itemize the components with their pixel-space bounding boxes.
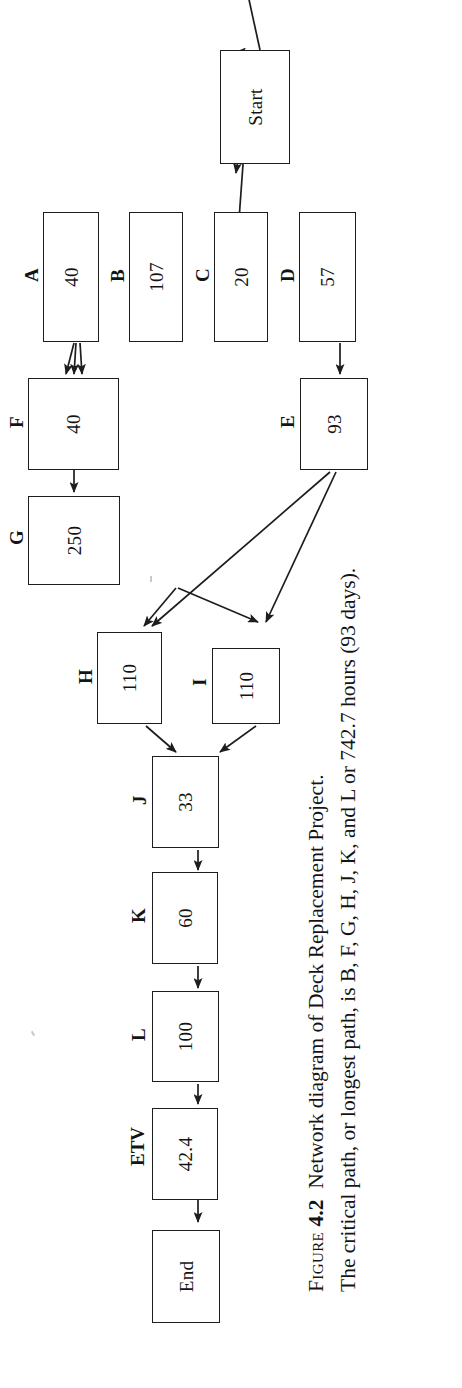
caption-figure-word: Figure — [304, 1232, 328, 1292]
edge-start-d — [236, 0, 260, 50]
caption-line-2: The critical path, or longest path, is B… — [332, 92, 364, 1292]
node-f-duration: 40 — [64, 414, 83, 434]
caption-line-1: Figure 4.2 Network diagram of Deck Repla… — [300, 92, 332, 1292]
node-start-text: Start — [246, 88, 265, 125]
node-l-label: L — [129, 1028, 148, 1041]
node-b[interactable]: 107 — [129, 212, 183, 342]
node-h-duration: 110 — [120, 664, 139, 693]
caption-title: Network diagram of Deck Replacement Proj… — [304, 774, 328, 1188]
node-start[interactable]: Start — [220, 50, 290, 164]
node-d-label: D — [278, 268, 297, 282]
node-b-duration: 107 — [147, 262, 166, 291]
node-a-label: A — [22, 268, 41, 282]
node-j-duration: 33 — [176, 792, 195, 812]
node-f-label: F — [7, 416, 26, 428]
node-g-label: G — [7, 530, 26, 545]
node-g[interactable]: 250 — [28, 496, 120, 585]
node-l-duration: 100 — [176, 1022, 195, 1051]
node-k-label: K — [129, 908, 148, 923]
node-a-duration: 40 — [62, 267, 81, 287]
edge-g-h — [144, 588, 176, 626]
node-etv-label: ETV — [128, 1127, 147, 1166]
figure-caption: Figure 4.2 Network diagram of Deck Repla… — [300, 92, 365, 1292]
node-a[interactable]: 40 — [43, 212, 99, 342]
edge-c-f — [80, 343, 82, 374]
node-c-label: C — [193, 268, 212, 282]
node-i[interactable]: 110 — [212, 648, 280, 724]
rotated-figure-stage: End 42.4 ETV 100 L 60 K 33 J 110 H 110 I… — [0, 0, 462, 1388]
node-l[interactable]: 100 — [152, 991, 219, 1082]
node-c-duration: 20 — [232, 267, 251, 287]
node-b-label: B — [108, 269, 127, 282]
node-f[interactable]: 40 — [28, 378, 119, 470]
node-h[interactable]: 110 — [97, 632, 162, 724]
edge-h-j — [146, 726, 176, 752]
caption-figure-number: 4.2 — [304, 1200, 328, 1227]
node-etv[interactable]: 42.4 — [152, 1108, 218, 1200]
node-etv-duration: 42.4 — [176, 1137, 195, 1171]
node-g-duration: 250 — [65, 526, 84, 555]
node-c[interactable]: 20 — [214, 212, 268, 342]
node-k[interactable]: 60 — [152, 872, 218, 964]
node-i-duration: 110 — [237, 672, 256, 701]
node-k-duration: 60 — [176, 908, 195, 928]
edge-b-f — [74, 343, 76, 374]
node-j-label: J — [130, 796, 149, 806]
node-e-label: E — [278, 415, 297, 428]
node-i-label: I — [190, 679, 209, 686]
node-j[interactable]: 33 — [152, 756, 219, 848]
node-h-label: H — [76, 669, 95, 684]
edge-a-f — [66, 343, 74, 374]
edge-i-j — [220, 726, 256, 752]
node-end-text: End — [177, 1261, 196, 1293]
node-end[interactable]: End — [152, 1230, 220, 1323]
